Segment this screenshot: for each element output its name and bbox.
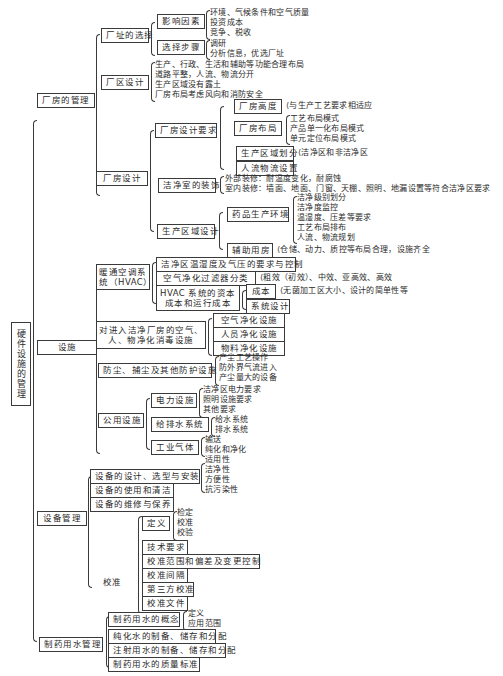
node-filter-class: 空气净化过滤器分类 bbox=[156, 271, 256, 286]
env-item: 人流、物流规划 bbox=[297, 233, 355, 243]
node-pharma-water: 制药用水管理 bbox=[39, 637, 103, 652]
utility-brace bbox=[146, 398, 150, 450]
power-item: 其他要求 bbox=[203, 405, 236, 415]
req-brace bbox=[220, 106, 224, 170]
aux-text: 仓储、动力、质控等布局合理，设施齐全 bbox=[280, 245, 429, 254]
factor-item: 竞争、税收 bbox=[210, 28, 252, 38]
root-brace bbox=[33, 120, 37, 642]
node-dust: 防尘、捕尘及其他防护设施 bbox=[98, 363, 212, 378]
node-zone-division: 生产区域划分 bbox=[236, 146, 294, 161]
factor-item: 环境、气候条件和空气质量 bbox=[210, 8, 310, 18]
node-facility: 设施 bbox=[37, 340, 97, 355]
node-drug-env: 药品生产环境 bbox=[227, 207, 289, 222]
decor-item: 外部装修：耐温度变化，耐腐蚀 bbox=[225, 174, 341, 184]
node-factors: 影响因素 bbox=[157, 14, 205, 29]
layout-item: 产品单一化布局模式 bbox=[290, 124, 365, 134]
decor-item: 室内装修：墙面、地面、门窗、天棚、照明、地漏设置等符合洁净区要求 bbox=[225, 184, 491, 194]
node-equipment: 设备管理 bbox=[37, 511, 87, 526]
env-item: 工艺布局排布 bbox=[297, 223, 347, 233]
node-system-design: 系统设计 bbox=[246, 299, 290, 314]
def-item: 校验 bbox=[177, 528, 194, 538]
power-item: 洁净区电力要求 bbox=[203, 385, 261, 395]
hvac-line1: 暖通空调系 bbox=[99, 267, 147, 277]
node-temp-control: 洁净区温湿度及气压的要求与控制 bbox=[156, 257, 296, 272]
node-zone-design: 厂区设计 bbox=[101, 75, 149, 90]
capital-text: 无菌加工区大小、设计的简单性等 bbox=[283, 286, 408, 295]
area-brace bbox=[219, 212, 223, 250]
design-brace bbox=[150, 130, 154, 232]
node-equip-use: 设备的使用和清洁 bbox=[90, 483, 174, 498]
node-hvac: 暖通空调系 统（HVAC） bbox=[96, 264, 150, 290]
concept-item: 应用范围 bbox=[188, 619, 221, 629]
equip-design-item: 适用性 bbox=[205, 455, 230, 465]
hvac-line2: 统（HVAC） bbox=[99, 277, 147, 287]
def-item: 检定 bbox=[177, 508, 194, 518]
capital-item: ⟨无菌加工区大小、设计的简单性等 bbox=[280, 286, 408, 296]
division-text: 洁净区和非洁净区 bbox=[301, 148, 367, 157]
node-area-design: 生产区域设计 bbox=[157, 224, 215, 239]
height-text: 与生产工艺要求相适应 bbox=[289, 101, 372, 110]
node-plant-layout: 厂房布局 bbox=[234, 121, 282, 136]
node-cleanroom-decor: 洁净室的装饰 bbox=[158, 178, 216, 193]
water-item: 制药用水的质量标准 bbox=[108, 657, 200, 672]
zone-item: 生产、行政、生活和辅助等功能合理布局 bbox=[155, 60, 304, 70]
equip-design-item: 方便性 bbox=[205, 475, 230, 485]
node-steps: 选择步骤 bbox=[157, 40, 205, 55]
filter-item: ⟨粗效（初效）、中效、亚高效、高效 bbox=[260, 273, 392, 283]
node-plant-design: 厂房设计 bbox=[96, 171, 148, 186]
gas-item: 纯化和净化 bbox=[205, 445, 247, 455]
site-brace bbox=[151, 22, 155, 56]
node-aux-room: 辅助用房 bbox=[227, 243, 273, 258]
def-item: 校准 bbox=[177, 518, 194, 528]
decor-brace bbox=[220, 176, 224, 194]
dust-item: 产尘量大的设备 bbox=[219, 373, 277, 383]
node-site-selection: 厂址的选择 bbox=[101, 28, 149, 43]
step-item: 调研 bbox=[210, 39, 227, 49]
dust-item: 产尘工艺操作 bbox=[219, 353, 269, 363]
cost-line2: 成本和运行成本 bbox=[159, 298, 237, 308]
env-item: 洁净度监控 bbox=[297, 203, 339, 213]
filter-text: 粗效（初效）、中效、亚高效、高效 bbox=[263, 273, 392, 282]
factor-item: 投资成本 bbox=[210, 18, 243, 28]
node-equip-design: 设备的设计、选型与安装 bbox=[90, 469, 200, 484]
cost-line1: HVAC 系统的资本 bbox=[159, 288, 237, 298]
node-design-req: 厂房设计要求 bbox=[155, 123, 217, 138]
calib-item: 校准范围和偏差及变更控制 bbox=[142, 554, 260, 569]
concept-item: 定义 bbox=[188, 609, 205, 619]
calib-item: 技术要求 bbox=[142, 540, 188, 555]
water-item: 给水系统 bbox=[215, 415, 248, 425]
node-water-system: 给排水系统 bbox=[151, 417, 209, 432]
layout-item: 工艺布局模式 bbox=[290, 114, 340, 124]
node-power: 电力设施 bbox=[151, 393, 197, 408]
water-item: 注射用水的制备、储存和分配 bbox=[108, 643, 226, 658]
purify-brace bbox=[208, 318, 212, 356]
root-node: 硬件设施的管理 bbox=[11, 322, 31, 406]
step-item: 分析信息，优选厂址 bbox=[210, 49, 285, 59]
node-gas: 工业气体 bbox=[151, 440, 199, 455]
power-item: 照明设施要求 bbox=[203, 395, 253, 405]
calib-item: 校准文件 bbox=[142, 596, 188, 611]
gas-item: 输送 bbox=[205, 435, 222, 445]
node-utility: 公用设施 bbox=[98, 413, 144, 428]
water-item: 排水系统 bbox=[215, 425, 248, 435]
calib-item: 校准间隔 bbox=[142, 568, 188, 583]
node-plant-management: 厂房的管理 bbox=[37, 93, 95, 108]
calib-item: 第三方校准 bbox=[142, 582, 194, 597]
dust-item: 防外界气流进入 bbox=[219, 363, 277, 373]
height-item: ⟨与生产工艺要求相适应 bbox=[286, 101, 372, 111]
aux-item: ⟨仓储、动力、质控等布局合理，设施齐全 bbox=[277, 245, 430, 255]
node-water-concept: 制药用水的概念 bbox=[108, 612, 180, 627]
env-item: 温湿度、压差等要求 bbox=[297, 213, 372, 223]
zone-item: 道路平整，人流、物流分开 bbox=[155, 70, 255, 80]
water-item: 纯化水的制备、储存和分配 bbox=[108, 629, 216, 644]
equip-design-item: 抗污染性 bbox=[205, 485, 238, 495]
node-plant-height: 厂房高度 bbox=[234, 99, 282, 114]
equip-design-item: 洁净性 bbox=[205, 465, 230, 475]
node-purify: 对进入洁净厂房的空气、 人、物净化消毒设施 bbox=[96, 321, 206, 349]
node-calibration: 校准 bbox=[92, 576, 132, 589]
division-item: ⟨洁净区和非洁净区 bbox=[298, 148, 368, 158]
node-capital-cost: 成本 bbox=[246, 284, 276, 299]
node-equip-maint: 设备的维修与保养 bbox=[90, 497, 174, 512]
node-calib-def: 定义 bbox=[142, 516, 170, 531]
purify-line2: 人、物净化消毒设施 bbox=[99, 335, 203, 345]
